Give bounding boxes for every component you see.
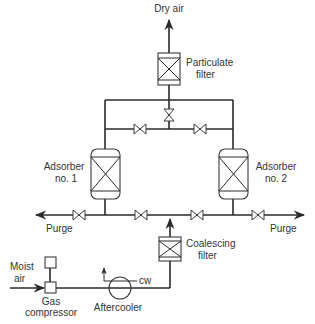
- valve-upper-right[interactable]: [194, 124, 206, 134]
- moist-air-label-2: air: [14, 273, 26, 284]
- aftercooler-label: Aftercooler: [94, 302, 143, 313]
- gas-compressor-label-2: compressor: [25, 307, 78, 318]
- adsorber-2-label-2: no. 2: [265, 173, 288, 184]
- coalescing-filter-label-2: filter: [198, 250, 218, 261]
- adsorber-1-label-2: no. 1: [55, 173, 78, 184]
- process-flow-diagram: Dry air Particulate filter Adsorber: [0, 0, 315, 324]
- adsorber-1: Adsorber no. 1: [44, 149, 120, 199]
- purge-left-label: Purge: [46, 223, 73, 234]
- valve-center-vertical[interactable]: [164, 109, 174, 121]
- compressor-motor: [45, 257, 56, 268]
- aftercooler: cw Aftercooler: [94, 268, 152, 313]
- moist-air-label-1: Moist: [10, 261, 34, 272]
- coalescing-filter: Coalescing filter: [159, 237, 235, 261]
- compressor-body: [45, 282, 56, 293]
- particulate-filter-label-2: filter: [196, 69, 216, 80]
- valve-lower-left[interactable]: [135, 210, 147, 220]
- particulate-filter: Particulate filter: [158, 53, 234, 85]
- adsorber-2-label-1: Adsorber: [256, 161, 297, 172]
- valve-purge-right[interactable]: [252, 210, 264, 220]
- dry-air-outlet: Dry air: [154, 3, 184, 53]
- gas-compressor-label-1: Gas: [42, 296, 60, 307]
- cw-label: cw: [139, 275, 152, 286]
- purge-right-label: Purge: [270, 223, 297, 234]
- adsorber-1-label-1: Adsorber: [44, 161, 85, 172]
- valve-purge-left[interactable]: [73, 210, 85, 220]
- valve-lower-right[interactable]: [191, 210, 203, 220]
- adsorber-2: Adsorber no. 2: [219, 149, 297, 199]
- dry-air-label: Dry air: [154, 3, 184, 14]
- particulate-filter-label-1: Particulate: [186, 57, 234, 68]
- coalescing-filter-label-1: Coalescing: [186, 238, 235, 249]
- valve-upper-left[interactable]: [134, 124, 146, 134]
